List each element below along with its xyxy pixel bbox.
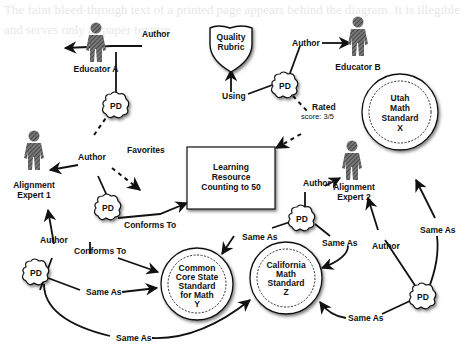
pd-label: PD (30, 268, 42, 278)
utah-label-1: Utah (391, 93, 410, 103)
edge-same-as-common-core-2 (222, 236, 234, 254)
edge-author-ae2-2 (368, 198, 378, 230)
alignment-expert-1-label-1: Alignment (13, 180, 55, 190)
edge-label-author: Author (372, 241, 401, 251)
person-icon (24, 131, 44, 171)
alignment-expert-2-label-2: Expert 2 (337, 192, 371, 202)
pd-label: PD (102, 203, 114, 213)
edge-conforms-resource (118, 203, 187, 218)
pd-label: PD (417, 292, 429, 302)
node-common-core-standard[interactable]: Common Core State Standard for Math Y (161, 248, 233, 320)
edge-label-author: Author (303, 178, 332, 188)
person-icon (86, 23, 106, 63)
edge-label-same-as: Same As (86, 287, 122, 297)
pd-label: PD (296, 214, 308, 224)
edge-label-same-as: Same As (420, 225, 456, 235)
alignment-expert-1-label-2: Expert 1 (17, 190, 51, 200)
node-quality-rubric[interactable]: Quality Rubric (210, 26, 252, 72)
utah-label-3: Standard (382, 113, 419, 123)
pd-node-1[interactable]: PD (102, 92, 128, 118)
pd-label: PD (110, 101, 122, 111)
educator-b-label: Educator B (335, 62, 380, 72)
node-educator-a[interactable] (86, 23, 106, 63)
resource-label-3: Counting to 50 (201, 182, 261, 192)
node-utah-standard[interactable]: Utah Math Standard X (362, 74, 438, 150)
edge-pd6-same-as-california (382, 300, 412, 314)
pd-node-3[interactable]: PD (94, 194, 120, 220)
edge-label-author: Author (142, 29, 171, 39)
pd-node-6[interactable]: PD (409, 283, 435, 309)
edge-label-conforms-to: Conforms To (124, 220, 176, 230)
edge-favorites-2 (112, 168, 140, 190)
common-core-label-5: Y (194, 299, 200, 309)
edge-pd4-same-as-1 (48, 278, 80, 290)
pd-label: PD (279, 81, 291, 91)
node-alignment-expert-1[interactable] (24, 131, 44, 171)
node-learning-resource[interactable]: Learning Resource Counting to 50 (187, 147, 275, 209)
pd-node-5[interactable]: PD (288, 205, 314, 231)
resource-label-2: Resource (212, 172, 251, 182)
quality-rubric-label-2: Rubric (218, 42, 245, 52)
edge-pd5-same-as-right (315, 224, 330, 236)
edge-label-conforms-to: Conforms To (74, 246, 126, 256)
edge-label-same-as: Same As (242, 232, 278, 242)
edge-label-rated: Rated (312, 102, 336, 112)
node-alignment-expert-2[interactable] (342, 141, 362, 181)
person-icon (342, 141, 362, 181)
utah-label-4: X (397, 123, 403, 133)
diagram-canvas: Educator A Educator B Alignment Expert 1… (0, 0, 470, 360)
edge-rated-1 (293, 96, 308, 112)
edge-conforms-common-core (118, 258, 158, 272)
edge-rated-2 (276, 134, 301, 148)
person-icon (348, 17, 368, 57)
edge-same-as-california-3 (320, 302, 346, 318)
edge-label-same-as: Same As (322, 238, 358, 248)
edge-same-as-utah (416, 180, 435, 218)
edge-author-ae1 (50, 165, 78, 170)
educator-a-label: Educator A (73, 64, 118, 74)
quality-rubric-label-1: Quality (217, 32, 246, 42)
edge-label-author: Author (40, 235, 69, 245)
edge-label-same-as: Same As (116, 333, 152, 343)
resource-label-1: Learning (213, 162, 249, 172)
node-california-standard[interactable]: California Math Standard Z (250, 242, 322, 314)
edge-label-author: Author (292, 38, 321, 48)
edge-pd6-same-as-utah (428, 236, 438, 290)
edge-pd2-author (289, 46, 300, 76)
pd-node-2[interactable]: PD (271, 72, 297, 98)
edge-same-as-california-2 (322, 246, 348, 268)
california-label-4: Z (283, 287, 288, 297)
edge-label-rated-score: score: 3/5 (301, 112, 334, 121)
edge-label-author: Author (78, 152, 107, 162)
edge-label-using: Using (222, 91, 246, 101)
pd-node-4[interactable]: PD (22, 259, 48, 285)
alignment-expert-2-label-1: Alignment (333, 182, 375, 192)
node-educator-b[interactable] (348, 17, 368, 57)
edge-label-same-as: Same As (348, 313, 384, 323)
edge-same-as-common-core (122, 288, 157, 292)
edge-label-favorites: Favorites (127, 145, 165, 155)
utah-label-2: Math (390, 103, 410, 113)
edge-pd5-same-as-left (272, 222, 290, 228)
